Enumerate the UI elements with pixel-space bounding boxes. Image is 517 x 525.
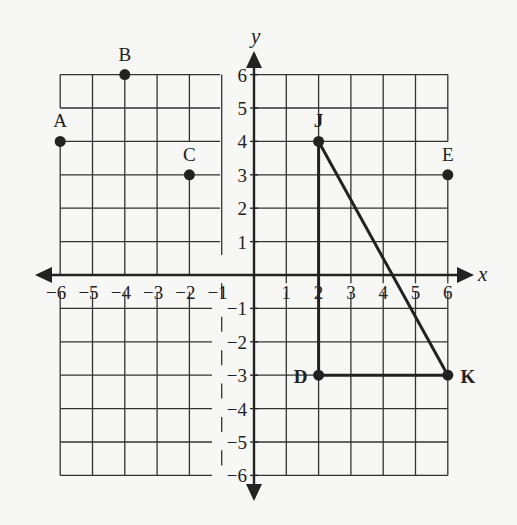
y-tick-label: 3 bbox=[238, 165, 248, 186]
y-axis-label: y bbox=[249, 24, 261, 48]
plotted-points: ABCEJDK bbox=[53, 44, 475, 388]
x-tick-label: 1 bbox=[282, 282, 292, 303]
coordinate-plane: −6−5−4−3−2−1123456654321−1−2−3−4−5−6 ABC… bbox=[0, 0, 517, 525]
x-tick-label: 6 bbox=[443, 282, 453, 303]
y-tick-label: 6 bbox=[238, 65, 248, 86]
y-tick-label: −2 bbox=[227, 332, 247, 353]
y-tick-label: 4 bbox=[238, 131, 248, 152]
x-tick-label: 5 bbox=[411, 282, 421, 303]
y-tick-label: 2 bbox=[238, 198, 248, 219]
x-tick-label: −3 bbox=[143, 282, 163, 303]
y-tick-label: −5 bbox=[227, 432, 247, 453]
arrow-left-icon bbox=[35, 267, 52, 283]
point-d bbox=[313, 370, 324, 381]
y-tick-label: 5 bbox=[238, 98, 248, 119]
y-tick-label: −6 bbox=[227, 465, 247, 486]
y-tick-label: −3 bbox=[227, 365, 247, 386]
point-label-d: D bbox=[294, 366, 308, 387]
point-label-a: A bbox=[53, 110, 67, 131]
point-c bbox=[184, 169, 195, 180]
y-tick-label: 1 bbox=[238, 232, 248, 253]
x-tick-label: −6 bbox=[46, 282, 66, 303]
y-tick-label: −4 bbox=[227, 399, 248, 420]
x-tick-label: −1 bbox=[208, 282, 228, 303]
arrow-down-icon bbox=[246, 484, 262, 501]
x-tick-label: −2 bbox=[175, 282, 195, 303]
point-b bbox=[119, 69, 130, 80]
arrow-up-icon bbox=[246, 51, 262, 68]
point-a bbox=[55, 136, 66, 147]
arrow-right-icon bbox=[457, 267, 474, 283]
point-label-k: K bbox=[460, 366, 475, 387]
point-label-e: E bbox=[442, 144, 454, 165]
axes bbox=[35, 51, 474, 501]
y-tick-label: −1 bbox=[227, 298, 247, 319]
point-j bbox=[313, 136, 324, 147]
x-tick-label: −4 bbox=[111, 282, 132, 303]
x-tick-label: 4 bbox=[378, 282, 388, 303]
x-tick-label: −5 bbox=[78, 282, 98, 303]
point-e bbox=[442, 169, 453, 180]
x-tick-label: 3 bbox=[346, 282, 356, 303]
point-label-c: C bbox=[183, 144, 196, 165]
point-k bbox=[442, 370, 453, 381]
point-label-b: B bbox=[118, 44, 131, 65]
x-axis-label: x bbox=[477, 262, 488, 286]
point-label-j: J bbox=[314, 110, 324, 131]
